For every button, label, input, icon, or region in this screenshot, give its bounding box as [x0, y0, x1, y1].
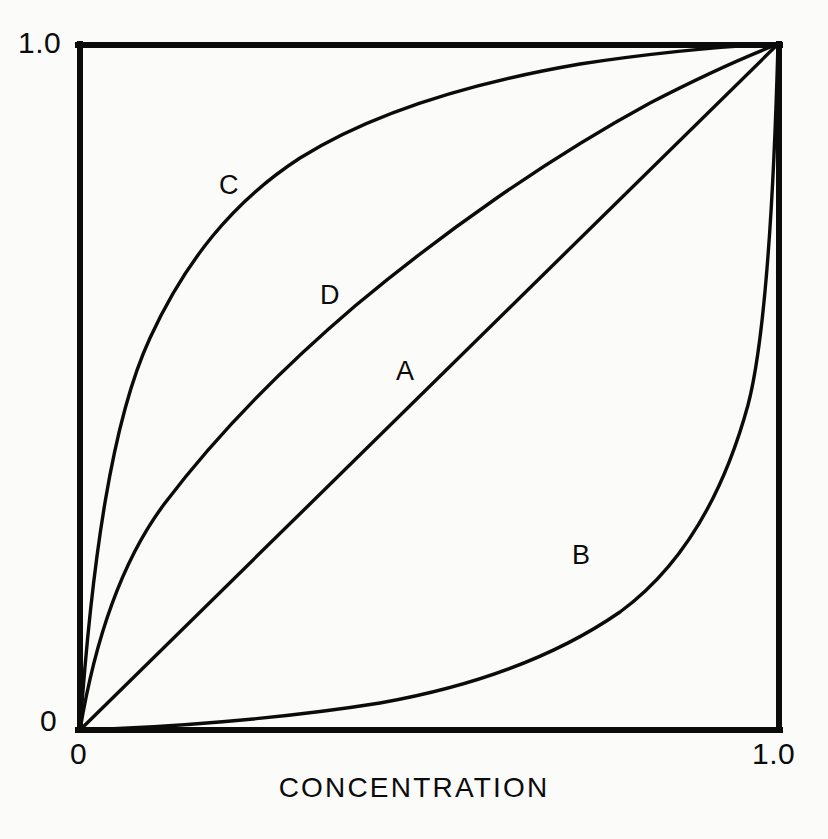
curve-label-c: C [219, 172, 239, 199]
curve-label-d: D [320, 282, 340, 309]
curve-A-path [80, 44, 778, 730]
y-axis-tick-label-max: 1.0 [18, 28, 61, 58]
plot-area [0, 0, 828, 839]
chart-figure: 1.0 0 0 1.0 C D A B CONCENTRATION [0, 0, 828, 839]
curve-label-b: B [572, 542, 590, 569]
y-axis-tick-label-zero: 0 [40, 706, 57, 736]
curve-label-a: A [396, 358, 414, 385]
x-axis-title: CONCENTRATION [0, 772, 828, 804]
x-axis-tick-label-max: 1.0 [752, 739, 795, 769]
x-axis-tick-label-zero: 0 [70, 739, 87, 769]
